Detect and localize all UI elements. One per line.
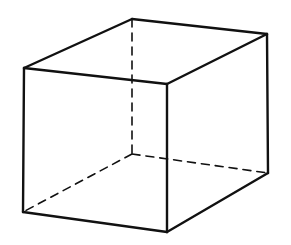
visible-edge-back-top-left-to-back-top-right: [132, 19, 267, 34]
visible-edge-front-top-left-to-back-top-left: [24, 19, 132, 68]
visible-edge-front-bottom-left-to-front-top-left: [23, 68, 24, 212]
visible-edge-back-top-right-to-back-bottom-right: [267, 34, 268, 173]
hidden-edge-back-bottom-left-to-back-bottom-right: [132, 154, 268, 173]
visible-edge-front-top-left-to-front-top-right: [24, 68, 167, 84]
cube-wireframe: [0, 0, 291, 245]
visible-edge-back-top-right-to-front-top-right: [167, 34, 267, 84]
visible-edge-front-bottom-right-to-front-bottom-left: [23, 212, 167, 232]
cube-diagram: [0, 0, 291, 245]
hidden-edge-back-bottom-left-to-front-bottom-left: [23, 154, 132, 212]
visible-edge-back-bottom-right-to-front-bottom-right: [167, 173, 268, 232]
